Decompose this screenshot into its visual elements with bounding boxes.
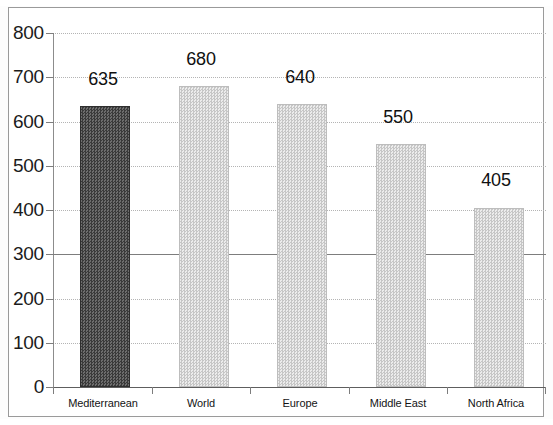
x-tick-3 bbox=[349, 387, 350, 394]
gridline-800 bbox=[53, 33, 546, 34]
y-tick-100 bbox=[46, 343, 54, 344]
value-label-mediterranean: 635 bbox=[88, 69, 117, 90]
y-label-600: 600 bbox=[13, 111, 44, 133]
x-label-north-africa: North Africa bbox=[468, 397, 524, 409]
x-tick-0 bbox=[53, 387, 54, 394]
y-label-100: 100 bbox=[13, 332, 44, 354]
y-label-200: 200 bbox=[13, 288, 44, 310]
y-tick-400 bbox=[46, 210, 54, 211]
y-label-300: 300 bbox=[13, 243, 44, 265]
scan-edge-top bbox=[0, 0, 553, 6]
x-tick-2 bbox=[250, 387, 251, 394]
y-label-0: 0 bbox=[34, 376, 44, 398]
value-label-europe: 640 bbox=[285, 67, 314, 88]
scan-edge-bottom bbox=[0, 419, 553, 425]
y-label-500: 500 bbox=[13, 155, 44, 177]
x-tick-5 bbox=[545, 387, 546, 394]
bar-chart: 800 700 600 500 400 300 200 100 0 635 68… bbox=[0, 0, 553, 425]
bar-north-africa[interactable] bbox=[474, 208, 524, 387]
bar-middle-east[interactable] bbox=[376, 144, 426, 387]
y-tick-600 bbox=[46, 122, 54, 123]
x-label-world: World bbox=[187, 397, 215, 409]
value-label-world: 680 bbox=[186, 49, 215, 70]
value-label-middle-east: 550 bbox=[383, 107, 412, 128]
y-tick-300 bbox=[46, 254, 54, 255]
y-tick-700 bbox=[46, 77, 54, 78]
y-tick-800 bbox=[46, 33, 54, 34]
y-label-400: 400 bbox=[13, 199, 44, 221]
bar-world[interactable] bbox=[179, 86, 229, 387]
x-tick-4 bbox=[447, 387, 448, 394]
y-tick-200 bbox=[46, 299, 54, 300]
x-tick-1 bbox=[152, 387, 153, 394]
x-label-middle-east: Middle East bbox=[370, 397, 426, 409]
x-label-mediterranean: Mediterranean bbox=[68, 397, 138, 409]
bar-mediterranean[interactable] bbox=[80, 106, 130, 387]
value-label-north-africa: 405 bbox=[481, 170, 510, 191]
y-tick-500 bbox=[46, 166, 54, 167]
bar-europe[interactable] bbox=[277, 104, 327, 387]
x-label-europe: Europe bbox=[283, 397, 318, 409]
y-label-700: 700 bbox=[13, 66, 44, 88]
y-label-800: 800 bbox=[13, 22, 44, 44]
gridline-0-baseline bbox=[53, 387, 546, 388]
